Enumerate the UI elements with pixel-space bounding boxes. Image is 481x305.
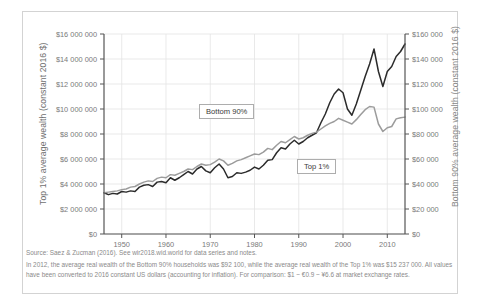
y-tick-left: $16 000 000: [23, 30, 97, 39]
y-tick-right: $0: [412, 230, 420, 239]
y-tick-right: $160 000: [412, 30, 443, 39]
y-axis-right-title: Bottom 90% average wealth (constant 2016…: [450, 47, 460, 207]
series-callout-bottom90: Bottom 90%: [199, 104, 254, 119]
y-tick-right: $80 000: [412, 130, 439, 139]
y-tick-right: $20 000: [412, 205, 439, 214]
y-tick-right: $60 000: [412, 155, 439, 164]
chart-figure: Top 1% average wealth (constant 2016 $) …: [22, 11, 458, 294]
y-tick-left: $14 000 000: [23, 55, 97, 64]
y-tick-right: $40 000: [412, 180, 439, 189]
y-tick-left: $0: [23, 230, 97, 239]
y-tick-right: $100 000: [412, 105, 443, 114]
y-tick-right: $140 000: [412, 55, 443, 64]
y-tick-left: $4 000 000: [23, 180, 97, 189]
footnote-note: In 2012, the average real wealth of the …: [26, 260, 456, 280]
y-tick-right: $120 000: [412, 80, 443, 89]
chart-plot-area: Top 1% average wealth (constant 2016 $) …: [23, 12, 459, 244]
gridlines: [104, 34, 405, 234]
y-tick-left: $6 000 000: [23, 155, 97, 164]
chart-footnote: Source: Saez & Zucman (2016). See wir201…: [26, 248, 456, 283]
footnote-source: Source: Saez & Zucman (2016). See wir201…: [26, 248, 456, 258]
y-tick-left: $12 000 000: [23, 80, 97, 89]
y-tick-left: $10 000 000: [23, 105, 97, 114]
y-tick-left: $2 000 000: [23, 205, 97, 214]
series-callout-top1: Top 1%: [297, 159, 336, 174]
y-tick-left: $8 000 000: [23, 130, 97, 139]
